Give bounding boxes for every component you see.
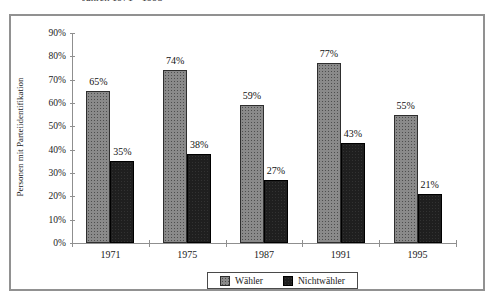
y-tick-mark — [70, 56, 75, 57]
x-tick-mark — [302, 240, 303, 247]
legend-swatch-waehler-icon — [220, 276, 230, 286]
y-tick-mark — [70, 126, 75, 127]
legend-item-waehler: Wähler — [220, 276, 263, 286]
y-tick-label: 60% — [26, 98, 66, 108]
y-tick-mark — [70, 196, 75, 197]
y-tick-mark — [70, 173, 75, 174]
clipped-title-text: Jahren 1971 - 1995 — [82, 0, 302, 3]
bar-value-label: 77% — [307, 48, 351, 59]
bar-value-label: 21% — [408, 179, 452, 190]
y-tick-label: 50% — [26, 121, 66, 131]
y-tick-label: 30% — [26, 168, 66, 178]
x-category-label: 1991 — [311, 249, 371, 260]
x-category-label: 1971 — [80, 249, 140, 260]
bar-value-label: 65% — [76, 76, 120, 87]
legend: Wähler Nichtwähler — [207, 272, 358, 289]
bar-waehler-1971 — [86, 91, 110, 243]
bar-value-label: 27% — [254, 165, 298, 176]
y-tick-mark — [70, 150, 75, 151]
x-category-label: 1995 — [388, 249, 448, 260]
bar-value-label: 43% — [331, 128, 375, 139]
y-tick-mark — [70, 80, 75, 81]
bar-waehler-1991 — [317, 63, 341, 243]
bar-value-label: 55% — [384, 100, 428, 111]
bar-value-label: 35% — [100, 146, 144, 157]
y-tick-label: 40% — [26, 145, 66, 155]
y-tick-label: 70% — [26, 75, 66, 85]
bar-nichtwaehler-1995 — [418, 194, 442, 243]
legend-swatch-nichtwaehler-icon — [283, 276, 293, 286]
x-category-label: 1987 — [234, 249, 294, 260]
y-tick-label: 90% — [26, 28, 66, 38]
bar-nichtwaehler-1991 — [341, 143, 365, 243]
legend-label-nichtwaehler: Nichtwähler — [298, 276, 345, 286]
bar-nichtwaehler-1987 — [264, 180, 288, 243]
x-tick-mark — [379, 240, 380, 247]
chart-screenshot: Jahren 1971 - 1995 Personen mit Parteiid… — [0, 0, 495, 300]
clipped-title: Jahren 1971 - 1995 — [82, 0, 302, 5]
y-tick-label: 20% — [26, 191, 66, 201]
x-tick-mark — [226, 240, 227, 247]
bar-nichtwaehler-1975 — [187, 154, 211, 243]
bar-nichtwaehler-1971 — [110, 161, 134, 243]
x-tick-mark — [456, 240, 457, 247]
y-tick-label: 80% — [26, 51, 66, 61]
y-tick-mark — [70, 33, 75, 34]
x-category-label: 1975 — [157, 249, 217, 260]
bar-value-label: 59% — [230, 90, 274, 101]
y-tick-mark — [70, 220, 75, 221]
y-tick-label: 0% — [26, 238, 66, 248]
x-tick-mark — [72, 240, 73, 247]
legend-label-waehler: Wähler — [235, 276, 263, 286]
legend-item-nichtwaehler: Nichtwähler — [283, 276, 345, 286]
bar-value-label: 38% — [177, 139, 221, 150]
x-axis-line — [72, 243, 456, 244]
bar-waehler-1975 — [163, 70, 187, 243]
x-tick-mark — [149, 240, 150, 247]
bar-value-label: 74% — [153, 55, 197, 66]
y-tick-mark — [70, 103, 75, 104]
y-axis-line — [72, 33, 73, 244]
y-tick-label: 10% — [26, 215, 66, 225]
